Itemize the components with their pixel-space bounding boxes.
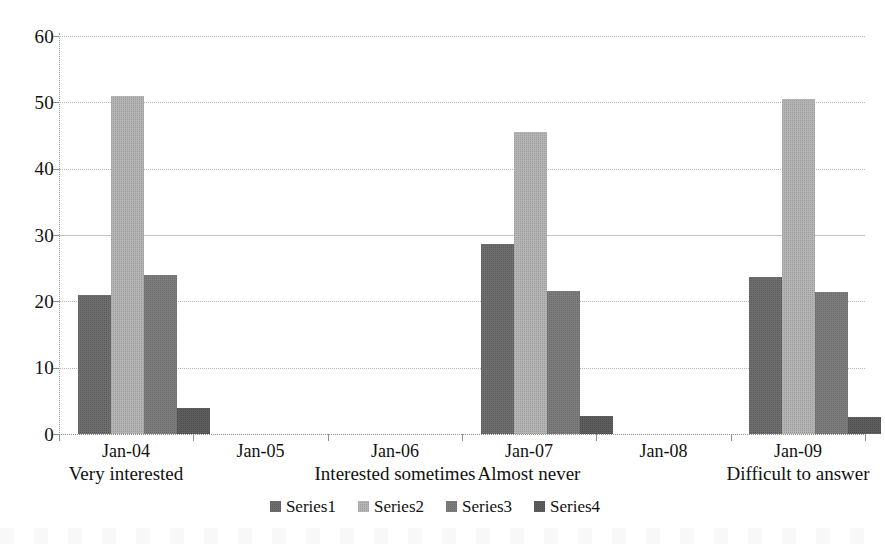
x-axis-sublabel: Difficult to answer xyxy=(664,462,885,486)
x-axis-category-jan-06: Jan-06 Interested sometimes xyxy=(328,440,462,486)
gridline-40 xyxy=(59,169,865,170)
legend-item-series2: Series2 xyxy=(358,498,424,515)
x-axis-category-jan-05: Jan-05 xyxy=(193,440,328,462)
bar-series4-jan-07 xyxy=(580,416,613,434)
legend-label: Series2 xyxy=(374,498,424,515)
bar-series4-jan-09 xyxy=(848,417,881,434)
bar-series2-jan-07 xyxy=(514,132,547,434)
bar-series1-jan-04 xyxy=(78,295,111,434)
y-axis-tick-label: 10 xyxy=(8,358,54,377)
x-axis-date-label: Jan-04 xyxy=(59,440,193,462)
x-axis-date-label: Jan-07 xyxy=(462,440,596,462)
legend-item-series1: Series1 xyxy=(270,498,336,515)
gridline-30 xyxy=(59,235,865,236)
y-axis-tick-label: 40 xyxy=(8,159,54,178)
legend-item-series4: Series4 xyxy=(534,498,600,515)
y-axis-tick-label: 50 xyxy=(8,93,54,112)
legend-label: Series1 xyxy=(286,498,336,515)
x-axis-sublabel: Very interested xyxy=(59,462,193,486)
legend-swatch-icon xyxy=(270,501,281,512)
legend-swatch-icon xyxy=(358,501,369,512)
legend-item-series3: Series3 xyxy=(446,498,512,515)
gridline-10 xyxy=(59,368,865,369)
legend-swatch-icon xyxy=(534,501,545,512)
x-axis-date-label: Jan-05 xyxy=(193,440,328,462)
bar-series3-jan-07 xyxy=(547,291,580,434)
y-axis-tick-label: 60 xyxy=(8,27,54,46)
legend-swatch-icon xyxy=(446,501,457,512)
scan-artifact xyxy=(0,528,870,544)
bar-series2-jan-09 xyxy=(782,99,815,434)
bar-series1-jan-07 xyxy=(481,244,514,434)
plot-area xyxy=(59,36,865,434)
x-axis-category-jan-07: Jan-07 Almost never xyxy=(462,440,596,486)
x-axis-category-jan-08: Jan-08 xyxy=(596,440,731,462)
chart-legend: Series1 Series2 Series3 Series4 xyxy=(0,498,870,515)
bar-series2-jan-04 xyxy=(111,96,144,434)
x-axis-sublabel: Almost never xyxy=(462,462,596,486)
x-axis-category-jan-04: Jan-04 Very interested xyxy=(59,440,193,486)
x-axis-date-label: Jan-08 xyxy=(596,440,731,462)
gridline-60 xyxy=(59,36,865,37)
x-axis-labels: Jan-04 Very interested Jan-05 Jan-06 Int… xyxy=(0,440,870,490)
x-axis-date-label: Jan-09 xyxy=(731,440,865,462)
x-axis-date-label: Jan-06 xyxy=(328,440,462,462)
x-axis-category-jan-09: Jan-09 Difficult to answer xyxy=(731,440,865,486)
legend-label: Series3 xyxy=(462,498,512,515)
bar-series4-jan-04 xyxy=(177,408,210,435)
y-axis-tick-label: 20 xyxy=(8,292,54,311)
bar-series3-jan-04 xyxy=(144,275,177,434)
gridline-50 xyxy=(59,102,865,103)
y-axis-tick-label: 30 xyxy=(8,226,54,245)
gridline-20 xyxy=(59,301,865,302)
legend-label: Series4 xyxy=(550,498,600,515)
bar-series1-jan-09 xyxy=(749,277,782,434)
bar-series3-jan-09 xyxy=(815,292,848,434)
